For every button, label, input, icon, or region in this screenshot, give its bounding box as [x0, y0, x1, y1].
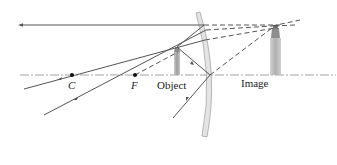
- ray-diagram: C F Object Image: [0, 0, 337, 165]
- ray-through-F: [44, 30, 206, 115]
- point-F: [133, 73, 137, 77]
- ray-F-virtual-extension: [206, 26, 272, 30]
- ray-vertex-virtual: [210, 28, 272, 75]
- label-C: C: [68, 79, 76, 91]
- point-C: [70, 73, 74, 77]
- object-figure: [174, 47, 180, 75]
- label-image: Image: [241, 77, 269, 89]
- image-figure: [270, 25, 281, 75]
- label-F: F: [130, 79, 138, 91]
- label-object: Object: [157, 79, 186, 91]
